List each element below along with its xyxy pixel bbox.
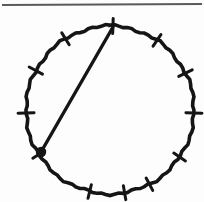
tick-3-oclock [186, 113, 202, 114]
tick-6-oclock [123, 186, 125, 200]
tick-mark-group [18, 19, 202, 200]
circle-figure-svg [0, 0, 204, 202]
tick-9-oclock [18, 113, 34, 114]
main-circle-outline [26, 25, 194, 196]
figure-container [0, 0, 204, 202]
tick-7-oclock [88, 185, 91, 199]
chord-line [41, 27, 113, 152]
filled-vertex-dot [36, 147, 46, 157]
horizontal-rule-line [2, 4, 202, 5]
